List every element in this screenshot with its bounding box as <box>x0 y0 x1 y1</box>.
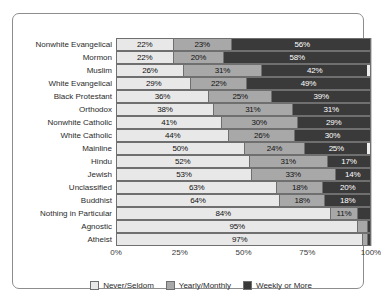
bar-segment[interactable]: 39% <box>271 91 370 102</box>
x-axis-tick-label: 100% <box>361 248 381 257</box>
bar-segment[interactable]: 56% <box>231 39 371 50</box>
stacked-bar[interactable]: 84%11% <box>116 207 371 220</box>
bar-segment[interactable]: 31% <box>213 104 291 115</box>
bar-segment[interactable]: 38% <box>117 104 213 115</box>
bar-segment[interactable]: 25% <box>304 143 367 154</box>
bar-segment[interactable]: 84% <box>117 208 330 219</box>
bar-segment-value: 26% <box>142 66 157 74</box>
bar-segment[interactable]: 20% <box>322 182 371 193</box>
stacked-bar[interactable]: 50%24%25% <box>116 142 371 155</box>
bar-segment[interactable]: 20% <box>173 52 224 63</box>
bar-segment[interactable]: 31% <box>249 156 327 167</box>
bar-row: 53%33%14% <box>116 168 371 181</box>
bar-segment[interactable]: 49% <box>246 78 370 89</box>
bar-segment[interactable]: 11% <box>330 208 358 219</box>
bar-segment-value: 22% <box>137 40 152 48</box>
bar-segment-value: 31% <box>324 105 339 113</box>
bar-segment[interactable] <box>357 221 367 232</box>
bar-segment[interactable]: 52% <box>117 156 249 167</box>
bar-segment[interactable]: 44% <box>117 130 228 141</box>
chart-frame: Nonwhite EvangelicalMormonMuslimWhite Ev… <box>12 13 364 289</box>
legend-item[interactable]: Weekly or More <box>243 281 312 290</box>
stacked-bar[interactable]: 44%26%30% <box>116 129 371 142</box>
bar-segment[interactable]: 29% <box>117 78 190 89</box>
bar-segment[interactable]: 26% <box>117 65 183 76</box>
stacked-bar[interactable]: 22%20%58% <box>116 51 371 64</box>
bar-segment-value: 97% <box>232 235 247 243</box>
stacked-bar[interactable]: 63%18%20% <box>116 181 371 194</box>
bar-segment[interactable]: 31% <box>183 65 261 76</box>
bar-segment[interactable]: 14% <box>335 169 370 180</box>
bar-segment[interactable]: 63% <box>117 182 276 193</box>
bar-segment-value: 38% <box>157 105 172 113</box>
stacked-bar[interactable]: 97% <box>116 233 371 246</box>
bar-segment-value: 64% <box>190 196 205 204</box>
bar-row: 95% <box>116 220 371 233</box>
bar-segment[interactable]: 26% <box>228 130 294 141</box>
bar-segment[interactable]: 58% <box>223 52 370 63</box>
bar-segment[interactable]: 17% <box>327 156 370 167</box>
bar-segment[interactable]: 42% <box>261 65 367 76</box>
bar-segment[interactable] <box>357 208 370 219</box>
stacked-bar[interactable]: 95% <box>116 220 371 233</box>
legend-item[interactable]: Yearly/Monthly <box>166 281 231 290</box>
bar-segment[interactable]: 18% <box>279 195 325 206</box>
category-label: Mormon <box>27 51 112 64</box>
bar-segment-value: 30% <box>251 118 266 126</box>
category-label: Black Protestant <box>27 90 112 103</box>
stacked-bar[interactable]: 36%25%39% <box>116 90 371 103</box>
bar-segment[interactable]: 22% <box>117 52 173 63</box>
bar-segment[interactable]: 29% <box>297 117 370 128</box>
legend-label: Yearly/Monthly <box>179 281 231 290</box>
bar-segment[interactable]: 18% <box>324 195 370 206</box>
bar-segment[interactable]: 33% <box>251 169 334 180</box>
stacked-bar[interactable]: 53%33%14% <box>116 168 371 181</box>
bar-segment[interactable]: 64% <box>117 195 279 206</box>
bar-segment-value: 29% <box>146 79 161 87</box>
bar-segment[interactable]: 30% <box>221 117 297 128</box>
bar-segment[interactable]: 22% <box>190 78 246 89</box>
bar-segment[interactable]: 41% <box>117 117 221 128</box>
bar-segment-value: 33% <box>286 170 301 178</box>
stacked-bar[interactable]: 22%23%56% <box>116 38 371 51</box>
bar-segment[interactable]: 36% <box>117 91 208 102</box>
bar-segment-value: 25% <box>329 144 344 152</box>
bar-segment[interactable]: 53% <box>117 169 251 180</box>
category-label: Buddhist <box>27 194 112 207</box>
legend-item[interactable]: Never/Seldom <box>90 281 154 290</box>
bar-segment[interactable]: 31% <box>292 104 370 115</box>
category-label: White Catholic <box>27 129 112 142</box>
bar-segment[interactable]: 24% <box>244 143 305 154</box>
stacked-bar[interactable]: 52%31%17% <box>116 155 371 168</box>
bar-segment[interactable] <box>367 234 370 245</box>
category-label: Muslim <box>27 64 112 77</box>
stacked-bar[interactable]: 29%22%49% <box>116 77 371 90</box>
bar-segment[interactable]: 95% <box>117 221 357 232</box>
bar-row: 64%18%18% <box>116 194 371 207</box>
stacked-bar[interactable]: 64%18%18% <box>116 194 371 207</box>
bar-segment[interactable] <box>367 221 370 232</box>
bar-segment[interactable]: 22% <box>117 39 173 50</box>
stacked-bar[interactable]: 41%30%29% <box>116 116 371 129</box>
bar-row: 38%31%31% <box>116 103 371 116</box>
bar-segment[interactable]: 30% <box>294 130 370 141</box>
category-label: Atheist <box>27 233 112 246</box>
bar-segment[interactable]: 18% <box>276 182 322 193</box>
stacked-bar[interactable]: 26%31%42% <box>116 64 371 77</box>
bar-segment-value: 31% <box>245 105 260 113</box>
bar-segment[interactable]: 50% <box>117 143 244 154</box>
x-axis-tick-label: 0% <box>110 248 122 257</box>
bar-segment[interactable]: 23% <box>173 39 231 50</box>
bar-segment-value: 24% <box>267 144 282 152</box>
bar-segment-value: 63% <box>189 183 204 191</box>
bar-row: 52%31%17% <box>116 155 371 168</box>
bar-segment[interactable]: 25% <box>208 91 271 102</box>
bar-segment-value: 56% <box>294 40 309 48</box>
bar-segment-value: 29% <box>326 118 341 126</box>
bar-segment[interactable]: 97% <box>117 234 362 245</box>
bar-segment-value: 50% <box>173 144 188 152</box>
bar-segment-value: 41% <box>161 118 176 126</box>
bar-segment-value: 36% <box>155 92 170 100</box>
stacked-bar[interactable]: 38%31%31% <box>116 103 371 116</box>
